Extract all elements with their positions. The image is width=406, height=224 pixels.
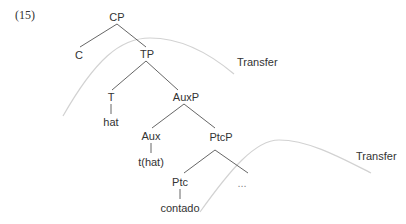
transfer-label-upper: Transfer (237, 57, 278, 68)
branch-auxp-ptcp (184, 104, 215, 128)
node-ptc-word-contado: contado (160, 203, 199, 214)
node-ptcp: PtcP (209, 132, 232, 143)
node-aux: Aux (142, 131, 161, 142)
branch-ptcp-ptc (184, 150, 215, 173)
transfer-label-lower: Transfer (356, 151, 397, 162)
node-cp: CP (109, 12, 124, 23)
node-ellipsis: ... (237, 178, 246, 189)
node-aux-word-that: t(hat) (138, 157, 164, 168)
node-ptc: Ptc (172, 177, 188, 188)
branch-auxp-aux (152, 104, 184, 128)
branch-cp-tp (117, 24, 146, 47)
branch-tp-t (112, 61, 146, 90)
tree-lines (0, 0, 406, 224)
branch-cp-c (80, 24, 117, 47)
node-t-word-hat: hat (103, 117, 118, 128)
node-tp: TP (140, 49, 154, 60)
syntax-tree-diagram: (15) CP C TP T hat AuxP Aux t(hat) PtcP … (0, 0, 406, 224)
branch-ptcp-ellipsis (215, 150, 248, 173)
node-auxp: AuxP (173, 92, 199, 103)
node-t: T (108, 92, 115, 103)
transfer-curve-lower (200, 140, 371, 212)
branch-tp-auxp (146, 61, 178, 90)
example-number: (15) (15, 9, 35, 21)
node-c: C (75, 50, 83, 61)
